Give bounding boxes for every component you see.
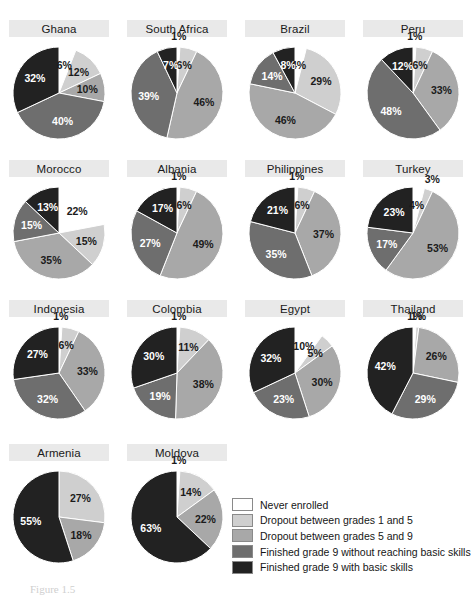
pie-panel-armenia: Armenia27%18%55% (0, 444, 118, 573)
pie-chart: 1%14%22%63% (118, 465, 236, 573)
panel-title: South Africa (145, 23, 208, 35)
pie-panel-egypt: Egypt10%5%30%23%32% (236, 300, 354, 429)
panel-title: Colombia (152, 303, 201, 315)
legend-item: Never enrolled (232, 497, 472, 513)
pie-chart: 10%5%30%23%32% (236, 321, 354, 429)
legend-label: Dropout between grades 1 and 5 (260, 514, 413, 526)
pie-chart: 1%11%38%19%30% (118, 321, 236, 429)
panel-title: Egypt (280, 303, 310, 315)
pie-panel-colombia: Colombia1%11%38%19%30% (118, 300, 236, 429)
pie-chart: 27%18%55% (0, 465, 118, 573)
panel-title: Brazil (280, 23, 309, 35)
panel-title: Ghana (41, 23, 76, 35)
pie-chart: 4%3%53%17%23% (354, 181, 472, 289)
pie-panel-philippines: Philippines1%6%37%35%21% (236, 160, 354, 289)
panel-title-band: Moldova (127, 444, 227, 461)
panel-title-band: South Africa (127, 20, 227, 37)
pie-panel-turkey: Turkey4%3%53%17%23% (354, 160, 472, 289)
pie-panel-thailand: Thailand1%1%26%29%42% (354, 300, 472, 429)
panel-title-band: Colombia (127, 300, 227, 317)
pie-panel-south-africa: South Africa1%6%46%39%7% (118, 20, 236, 149)
pie-chart: 6%12%10%40%32% (0, 41, 118, 149)
pie-panel-peru: Peru1%6%33%48%12% (354, 20, 472, 149)
pie-chart: 1%6%46%39%7% (118, 41, 236, 149)
legend-swatch (232, 545, 253, 558)
legend-label: Finished grade 9 without reaching basic … (260, 546, 471, 558)
pie-chart: 1%6%33%48%12% (354, 41, 472, 149)
pie-slice (367, 187, 413, 233)
panel-title: Peru (401, 23, 426, 35)
pie-panel-brazil: Brazil4%29%46%14%8% (236, 20, 354, 149)
pie-chart: 1%6%49%27%17% (118, 181, 236, 289)
pie-chart: 4%29%46%14%8% (236, 41, 354, 149)
panel-title-band: Ghana (9, 20, 109, 37)
legend-item: Finished grade 9 without reaching basic … (232, 544, 472, 560)
legend-swatch (232, 514, 253, 527)
panel-title-band: Egypt (245, 300, 345, 317)
panel-title-band: Albania (127, 160, 227, 177)
panel-title-band: Morocco (9, 160, 109, 177)
panel-title: Turkey (395, 163, 430, 175)
panel-title-band: Armenia (9, 444, 109, 461)
legend-label: Never enrolled (260, 499, 328, 511)
legend-swatch (232, 498, 253, 511)
panel-title-band: Peru (363, 20, 463, 37)
panel-title: Indonesia (34, 303, 85, 315)
figure-caption: Figure 1.5 (30, 583, 75, 595)
pie-panel-moldova: Moldova1%14%22%63% (118, 444, 236, 573)
panel-title: Albania (157, 163, 196, 175)
legend-label: Finished grade 9 with basic skills (260, 561, 413, 573)
pie-panel-morocco: Morocco22%15%35%15%13% (0, 160, 118, 289)
panel-title-band: Philippines (245, 160, 345, 177)
panel-title: Philippines (267, 163, 324, 175)
legend-item: Dropout between grades 1 and 5 (232, 513, 472, 529)
pie-panel-ghana: Ghana6%12%10%40%32% (0, 20, 118, 149)
panel-title: Armenia (37, 447, 81, 459)
panel-title-band: Indonesia (9, 300, 109, 317)
pie-chart: 1%6%37%35%21% (236, 181, 354, 289)
panel-title-band: Thailand (363, 300, 463, 317)
chart-legend: Never enrolledDropout between grades 1 a… (232, 497, 472, 575)
panel-title: Morocco (37, 163, 82, 175)
panel-title-band: Brazil (245, 20, 345, 37)
pie-chart: 1%6%33%32%27% (0, 321, 118, 429)
pie-chart: 22%15%35%15%13% (0, 181, 118, 289)
pie-slice (59, 471, 105, 523)
pie-chart: 1%1%26%29%42% (354, 321, 472, 429)
pie-panel-albania: Albania1%6%49%27%17% (118, 160, 236, 289)
legend-item: Dropout between grades 5 and 9 (232, 528, 472, 544)
legend-swatch (232, 529, 253, 542)
panel-title-band: Turkey (363, 160, 463, 177)
legend-swatch (232, 561, 253, 574)
panel-title: Moldova (155, 447, 199, 459)
legend-item: Finished grade 9 with basic skills (232, 559, 472, 575)
pie-slice (13, 327, 59, 380)
legend-label: Dropout between grades 5 and 9 (260, 530, 413, 542)
panel-title: Thailand (391, 303, 436, 315)
pie-panel-indonesia: Indonesia1%6%33%32%27% (0, 300, 118, 429)
